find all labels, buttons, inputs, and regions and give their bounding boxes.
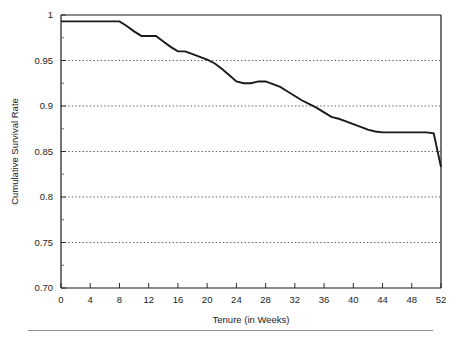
survival-chart-figure: 0.700.750.80.850.90.95104812162024283236… — [0, 0, 461, 343]
x-tick-label-20: 20 — [202, 294, 213, 305]
y-tick-label-0.8: 0.8 — [40, 191, 53, 202]
y-tick-label-0.85: 0.85 — [35, 146, 54, 157]
x-tick-label-28: 28 — [260, 294, 271, 305]
footer-divider — [28, 330, 433, 331]
x-tick-label-8: 8 — [117, 294, 122, 305]
y-tick-label-0.75: 0.75 — [35, 237, 54, 248]
x-tick-label-32: 32 — [290, 294, 301, 305]
x-tick-label-24: 24 — [231, 294, 242, 305]
y-tick-label-0.9: 0.9 — [40, 100, 53, 111]
x-tick-label-12: 12 — [143, 294, 154, 305]
x-axis-title: Tenure (in Weeks) — [213, 314, 290, 325]
y-tick-label-1: 1 — [48, 9, 53, 20]
y-tick-label-0.95: 0.95 — [35, 55, 54, 66]
x-tick-label-4: 4 — [88, 294, 93, 305]
x-tick-label-16: 16 — [173, 294, 184, 305]
x-tick-label-44: 44 — [377, 294, 388, 305]
x-tick-label-40: 40 — [348, 294, 359, 305]
x-tick-label-36: 36 — [319, 294, 330, 305]
y-axis-title: Cumulative Survival Rate — [9, 98, 20, 205]
y-tick-label-0.70: 0.70 — [35, 282, 54, 293]
x-tick-label-0: 0 — [58, 294, 63, 305]
series-line-0 — [61, 21, 441, 167]
chart-canvas: 0.700.750.80.850.90.95104812162024283236… — [0, 0, 461, 343]
x-tick-label-52: 52 — [436, 294, 447, 305]
x-tick-label-48: 48 — [406, 294, 417, 305]
